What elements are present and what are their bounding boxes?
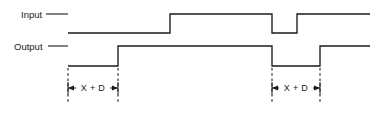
delay-left-arrowhead-right-icon — [112, 85, 118, 90]
signal-group-output: Output — [14, 41, 370, 66]
output-signal-label: Output — [14, 41, 43, 52]
output-waveform — [68, 46, 370, 66]
dimension-group-delay-right: X + D — [272, 68, 320, 104]
timing-diagram-figure: InputOutputX + DX + D — [0, 0, 381, 114]
timing-diagram-canvas: InputOutputX + DX + D — [0, 0, 381, 114]
dimension-group-delay-left: X + D — [68, 68, 118, 104]
delay-right-arrowhead-right-icon — [314, 85, 320, 90]
delay-left-arrowhead-left-icon — [68, 85, 74, 90]
input-signal-label: Input — [21, 9, 42, 20]
input-waveform — [68, 14, 370, 33]
delay-left-measure-label: X + D — [81, 83, 105, 93]
delay-right-measure-label: X + D — [284, 83, 308, 93]
delay-right-arrowhead-left-icon — [272, 85, 278, 90]
signal-group-input: Input — [21, 9, 370, 33]
